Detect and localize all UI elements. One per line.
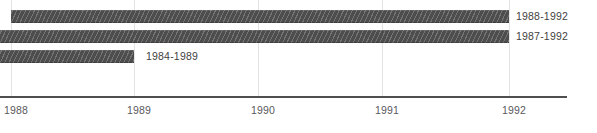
bar-1988-1992[interactable] <box>11 10 509 23</box>
bar-label-1987-1992: 1987-1992 <box>516 30 568 43</box>
x-tick-label-1992: 1992 <box>502 104 526 116</box>
bar-label-1984-1989: 1984-1989 <box>146 50 198 63</box>
gridline-1992 <box>509 0 510 97</box>
plot-area: 1988-1992 1987-1992 1984-1989 <box>0 0 597 98</box>
bar-1984-1989[interactable] <box>0 50 134 63</box>
x-tick-label-1990: 1990 <box>251 104 275 116</box>
x-tick-label-1989: 1989 <box>127 104 151 116</box>
x-tick-label-1991: 1991 <box>375 104 399 116</box>
bar-1987-1992[interactable] <box>0 30 509 43</box>
bar-label-1988-1992: 1988-1992 <box>516 10 568 23</box>
timeline-bar-chart: 1988-1992 1987-1992 1984-1989 1988 1989 … <box>0 0 597 133</box>
x-axis-line <box>0 96 567 98</box>
x-tick-label-1988: 1988 <box>4 104 28 116</box>
